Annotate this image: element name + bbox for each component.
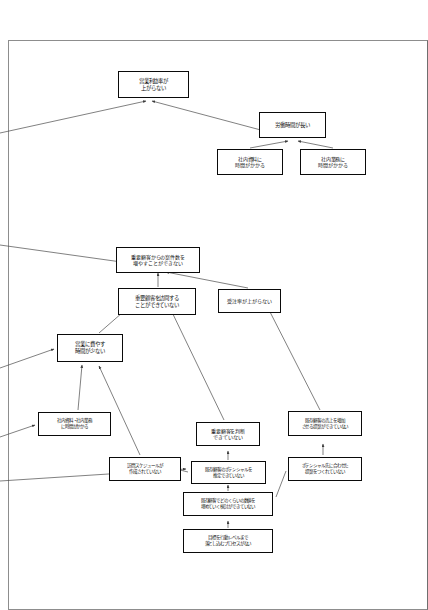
node-cannot-visit-key-clients[interactable]: 重要顧客を訪問する ことができていない	[118, 288, 196, 315]
node-key-client-deal-count[interactable]: 重要顧客からの案件数を 増やすことができない	[116, 247, 200, 273]
node-internal-materials-time[interactable]: 社内資料に 時間がかかる	[217, 149, 283, 175]
node-internal-operations-time[interactable]: 社内業務に 時間がかかる	[300, 149, 366, 175]
node-line-1: 既存顧客の売上を増加	[302, 418, 349, 424]
node-line-1: 受注率が上がらない	[227, 298, 271, 304]
node-line-2: 時間が少ない	[75, 348, 104, 355]
node-cannot-estimate-potential[interactable]: 既存顧客のポテンシャルを 推定できていない	[191, 461, 266, 484]
node-line-1: 既存顧客のポテンシャルを	[205, 467, 252, 473]
node-no-upsell-proposal[interactable]: 既存顧客の売上を増加 させる提案ができていない	[288, 411, 362, 436]
node-no-target-value-review[interactable]: 既存顧客でどのくらいの数値を 埋めていく検討ができていない	[183, 492, 273, 516]
node-line-2: 埋めていく検討ができていない	[201, 504, 256, 510]
node-operating-profit-rate[interactable]: 営業利益率が 上がらない	[118, 71, 189, 98]
node-line-2: 提案をつくれていない	[302, 469, 349, 475]
node-line-2: 推定できていない	[205, 473, 252, 479]
node-line-2: できていない	[211, 434, 245, 440]
node-line-1: 営業に費やす	[75, 341, 104, 348]
node-win-rate-flat[interactable]: 受注率が上がらない	[218, 289, 281, 313]
node-line-1: 労働時間が長い	[275, 122, 309, 129]
node-internal-work-time-combined[interactable]: 社内資料・社内業務 に時間がかかる	[38, 412, 111, 436]
node-line-1: 重要顧客を訪問する	[135, 295, 179, 302]
node-line-2: 時間がかかる	[318, 162, 347, 168]
node-no-tailored-proposal[interactable]: ポテンシャル先に合わせた 提案をつくれていない	[288, 457, 362, 481]
page-frame	[8, 40, 428, 610]
node-line-2: 上がらない	[139, 85, 168, 92]
node-no-goal-breakdown-process[interactable]: 目標を行動レベルまで 落とし込むプロセスがない	[183, 529, 273, 553]
node-line-1: 営業利益率が	[139, 78, 168, 85]
node-cannot-identify-key-clients[interactable]: 重要顧客を判断 できていない	[196, 422, 260, 446]
node-line-2: 作成されていない	[127, 469, 162, 475]
node-line-2: 増やすことができない	[131, 260, 185, 266]
node-line-2: 時間がかかる	[235, 162, 264, 168]
node-line-2: 落とし込むプロセスがない	[205, 541, 252, 547]
node-no-visit-schedule[interactable]: 訪問スケジュールが 作成されていない	[109, 457, 181, 481]
node-long-working-hours[interactable]: 労働時間が長い	[259, 112, 326, 138]
node-little-selling-time[interactable]: 営業に費やす 時間が少ない	[57, 334, 123, 362]
node-line-2: ことができていない	[135, 302, 179, 309]
node-line-2: させる提案ができていない	[302, 424, 349, 430]
node-line-2: に時間がかかる	[57, 424, 92, 430]
